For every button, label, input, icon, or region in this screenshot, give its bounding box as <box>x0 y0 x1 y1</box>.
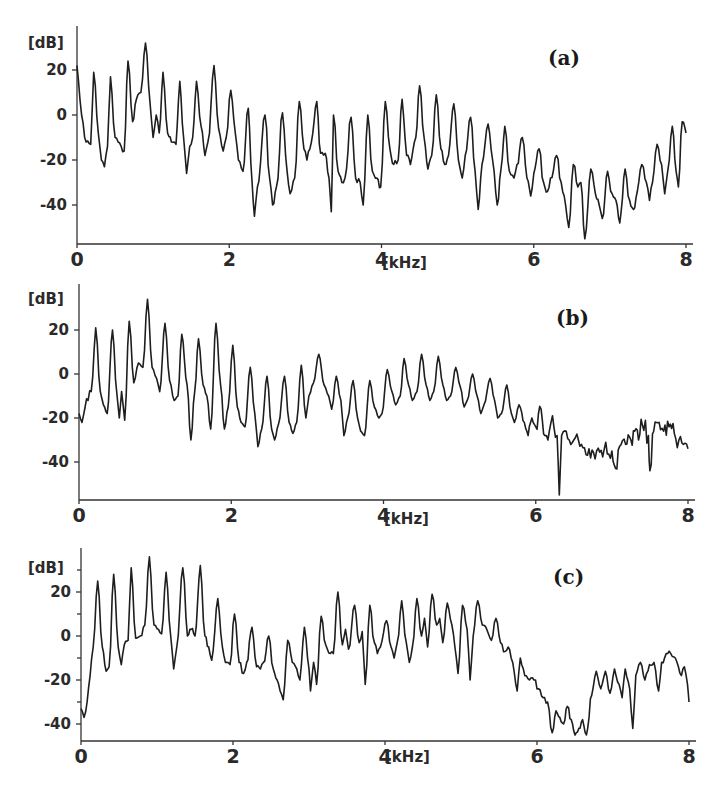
y-tick-label: -20 <box>40 151 67 169</box>
x-tick-label: 0 <box>72 504 85 526</box>
panel-a-spectrum-line <box>77 43 686 239</box>
spectrum-figure: (a) [dB] [kHz] 200-20-4002468 (b) [dB] [… <box>0 0 721 792</box>
x-tick-label: 6 <box>529 504 542 526</box>
y-tick-label: -40 <box>40 196 67 214</box>
panel-c-xlabel: [kHz] <box>385 748 430 766</box>
x-tick-label: 2 <box>223 248 236 270</box>
y-tick-label: -40 <box>44 715 71 733</box>
panel-c-label: (c) <box>553 565 584 589</box>
x-tick-label: 8 <box>681 504 694 526</box>
panel-b-spectrum-line <box>79 299 688 495</box>
panel-a: (a) [dB] [kHz] 200-20-4002468 <box>28 26 693 272</box>
x-tick-label: 6 <box>527 248 540 270</box>
y-tick-label: 0 <box>59 365 69 383</box>
panel-b: (b) [dB] [kHz] 200-20-4002468 <box>28 284 695 528</box>
y-tick-label: 0 <box>61 627 71 645</box>
x-tick-label: 2 <box>225 504 238 526</box>
panel-a-ylabel: [dB] <box>28 34 64 52</box>
y-tick-label: 20 <box>46 61 67 79</box>
x-tick-label: 2 <box>226 745 239 767</box>
panel-b-xlabel: [kHz] <box>384 510 429 528</box>
x-tick-label: 6 <box>530 745 543 767</box>
x-tick-label: 4 <box>378 745 391 767</box>
x-tick-label: 0 <box>74 745 87 767</box>
panel-c-axes: 200-20-4002468 <box>44 548 696 767</box>
x-tick-label: 0 <box>70 248 83 270</box>
y-tick-label: 20 <box>48 321 69 339</box>
y-tick-label: 0 <box>57 106 67 124</box>
panel-a-label: (a) <box>548 46 580 70</box>
panel-a-xlabel: [kHz] <box>382 254 427 272</box>
x-tick-label: 8 <box>679 248 692 270</box>
panel-c-spectrum-line <box>81 557 689 735</box>
panel-c: (c) [dB] [kHz] 200-20-4002468 <box>28 548 696 767</box>
panel-c-ylabel: [dB] <box>28 559 64 577</box>
x-tick-label: 8 <box>682 745 695 767</box>
x-tick-label: 4 <box>375 248 388 270</box>
panel-b-ylabel: [dB] <box>28 290 64 308</box>
y-tick-label: -40 <box>42 453 69 471</box>
x-tick-label: 4 <box>377 504 390 526</box>
y-tick-label: 20 <box>50 583 71 601</box>
y-tick-label: -20 <box>44 671 71 689</box>
panel-b-label: (b) <box>556 306 589 330</box>
panel-b-axes: 200-20-4002468 <box>42 284 695 526</box>
y-tick-label: -20 <box>42 409 69 427</box>
